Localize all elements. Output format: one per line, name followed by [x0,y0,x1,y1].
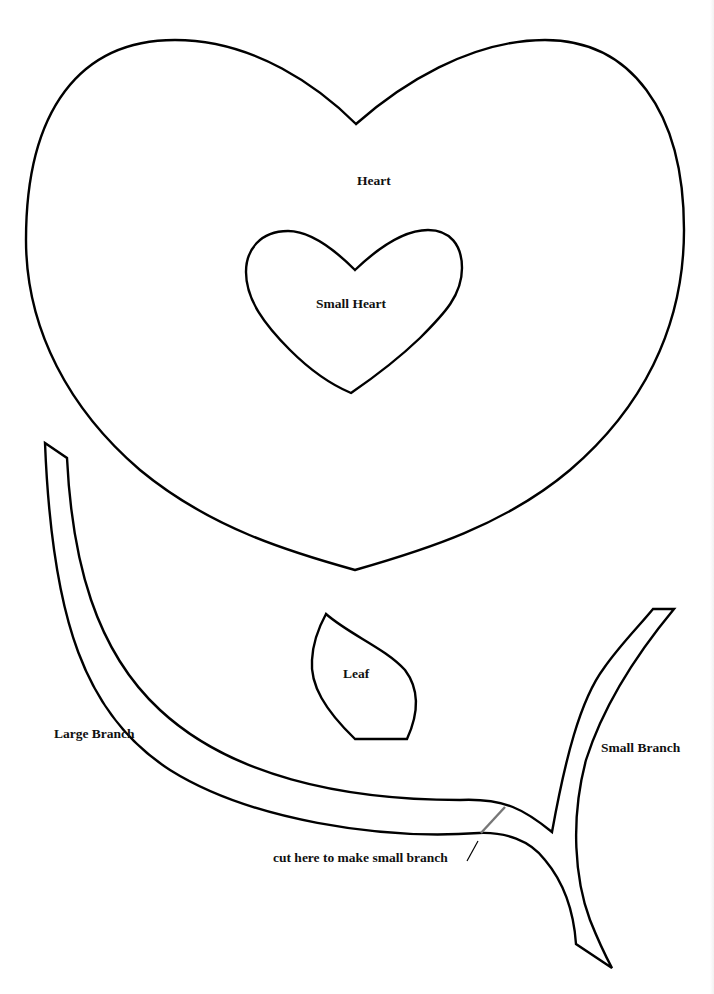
large-branch-label: Large Branch [54,727,135,741]
small-branch-label: Small Branch [601,741,680,755]
heart-label: Heart [357,174,391,188]
leaf-label: Leaf [343,667,369,681]
template-canvas [0,0,714,994]
page-edge [710,0,714,994]
cut-instruction-label: cut here to make small branch [273,851,448,865]
small-heart-label: Small Heart [316,297,386,311]
cut-pointer-line [467,841,478,861]
